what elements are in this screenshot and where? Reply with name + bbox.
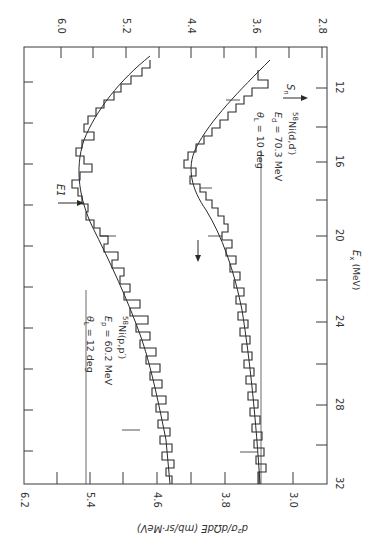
pp-reaction: 58Ni(p,p′)	[115, 316, 132, 385]
bottom-tick-label: 3.0	[288, 492, 299, 508]
right-tick-label: 12	[334, 81, 345, 94]
bottom-axis-title: d²σ/dΩdE (mb/sr·MeV)	[137, 523, 248, 534]
e1-arrow-icon	[58, 200, 84, 206]
right-tick-label: 20	[334, 229, 345, 242]
right-axis-title-sub: x	[348, 256, 356, 260]
down-arrow-icon	[195, 240, 201, 262]
top-tick-label: 5.2	[121, 18, 132, 34]
top-tick-label: 4.4	[186, 18, 197, 34]
dd-energy: Ed = 70.3 MeV	[267, 112, 285, 181]
pp-energy: Ep = 60.2 MeV	[97, 316, 115, 385]
bottom-tick-label: 4.6	[152, 492, 163, 508]
top-axis-ticks	[61, 47, 322, 58]
right-tick-label: 16	[334, 155, 345, 168]
sn-arrow-icon	[283, 95, 308, 101]
sn-label: Sn	[282, 84, 296, 95]
pp-annotation: 58Ni(p,p′) Ep = 60.2 MeV θL = 12 deg	[79, 316, 132, 385]
top-tick-label: 3.6	[251, 18, 262, 34]
spectrum-chart	[0, 0, 374, 546]
e1-label: E1	[55, 184, 66, 197]
right-tick-label: 32	[334, 477, 345, 490]
bottom-tick-label: 6.2	[19, 492, 30, 508]
left-axis-ticks	[24, 82, 33, 451]
dd-reaction: 58Ni(d,d′)	[285, 112, 302, 181]
top-tick-label: 2.8	[317, 18, 328, 34]
pp-angle: θL = 12 deg	[79, 316, 97, 385]
top-tick-label: 6.0	[56, 18, 67, 34]
right-axis-title-unit: (MeV)	[351, 264, 361, 290]
bottom-tick-label: 5.4	[85, 492, 96, 508]
dd-angle: θL = 10 deg	[249, 112, 267, 181]
right-tick-label: 24	[334, 315, 345, 328]
right-axis-ticks	[316, 88, 327, 445]
right-axis-title: Ex (MeV)	[348, 250, 362, 290]
bottom-tick-label: 3.8	[220, 492, 231, 508]
pp-histogram	[72, 60, 174, 484]
right-tick-label: 28	[334, 398, 345, 411]
dd-annotation: 58Ni(d,d′) Ed = 70.3 MeV θL = 10 deg	[249, 112, 302, 181]
